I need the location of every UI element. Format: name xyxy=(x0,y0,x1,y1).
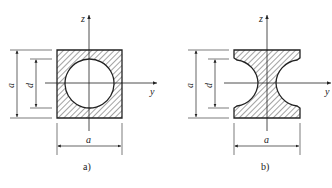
dimension-d-label: d xyxy=(24,82,35,88)
figure-a: z y a d a a) xyxy=(5,13,157,173)
dimension-a-horizontal-label: a xyxy=(86,134,91,145)
y-axis-label: y xyxy=(324,86,330,97)
figure-b: z y a d a b) xyxy=(184,13,331,173)
z-axis-label: z xyxy=(258,13,263,24)
y-axis-label: y xyxy=(149,86,155,97)
caption-b: b) xyxy=(261,161,269,173)
caption-a: a) xyxy=(83,161,91,173)
cross-section-diagram: z y a d a a) z y a d xyxy=(0,0,332,188)
dimension-a-vertical-label: a xyxy=(184,83,195,88)
square-section-with-hole xyxy=(57,50,122,118)
z-axis-label: z xyxy=(80,13,85,24)
dimension-a-horizontal-label: a xyxy=(264,134,269,145)
dimension-a-vertical-label: a xyxy=(5,83,16,88)
dimension-d-label: d xyxy=(203,82,214,88)
